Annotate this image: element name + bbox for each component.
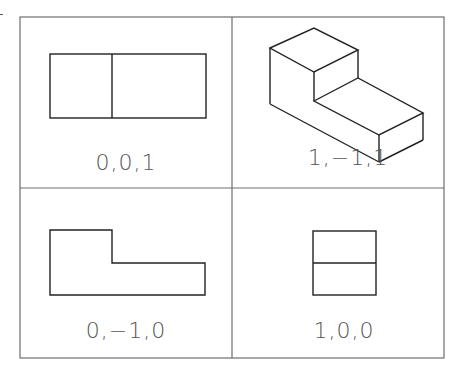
front-view-drawing bbox=[50, 230, 205, 295]
viewpoint-label-top-right: 1,−1,1 bbox=[248, 145, 448, 170]
viewpoint-grid-diagram bbox=[0, 0, 459, 368]
viewpoint-label-top-left: 0,0,1 bbox=[26, 150, 226, 175]
viewpoint-label-bottom-left: 0,−1,0 bbox=[26, 318, 226, 343]
panel-grid bbox=[20, 17, 444, 358]
isometric-view-drawing bbox=[270, 28, 423, 162]
top-view-drawing bbox=[50, 54, 206, 118]
side-view-drawing bbox=[313, 231, 376, 295]
viewpoint-label-bottom-right: 1,0,0 bbox=[244, 318, 444, 343]
